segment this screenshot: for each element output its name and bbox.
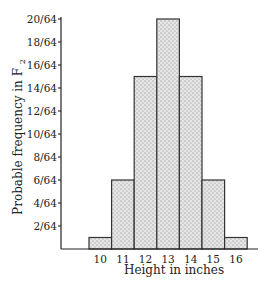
y-tick-label: 4/64	[33, 197, 57, 209]
y-tick-label: 6/64	[33, 174, 57, 186]
x-axis-label: Height in inches	[124, 263, 224, 277]
bar-16	[225, 238, 248, 250]
bars-group	[89, 19, 247, 249]
y-axis: 2/644/646/648/6410/6412/6414/6416/6418/6…	[27, 13, 61, 249]
y-tick-label: 20/64	[27, 13, 58, 25]
bar-12	[134, 77, 157, 250]
y-tick-label: 16/64	[27, 59, 58, 71]
bar-14	[179, 77, 202, 250]
y-axis-label: Probable frequency in F 2	[11, 59, 27, 215]
y-tick-label: 8/64	[33, 151, 57, 163]
bar-15	[202, 180, 225, 249]
y-tick-label: 14/64	[27, 82, 58, 94]
bar-10	[89, 238, 112, 250]
y-tick-label: 2/64	[33, 220, 57, 232]
x-tick-label: 16	[229, 253, 243, 265]
bar-13	[157, 19, 180, 249]
y-tick-label: 10/64	[27, 128, 58, 140]
y-tick-label: 12/64	[27, 105, 58, 117]
bar-11	[112, 180, 135, 249]
y-tick-label: 18/64	[27, 36, 58, 48]
x-tick-label: 10	[94, 253, 107, 265]
histogram-chart: 2/644/646/648/6410/6412/6414/6416/6418/6…	[0, 0, 269, 292]
